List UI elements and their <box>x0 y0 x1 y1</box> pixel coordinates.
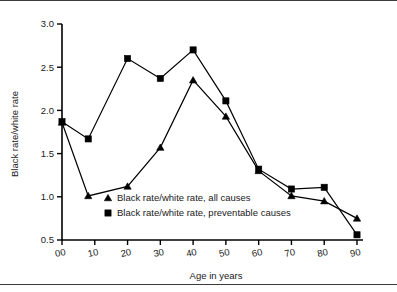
data-point-marker <box>223 98 229 104</box>
x-axis-tick-label: 10 <box>87 246 100 259</box>
legend-marker-triangle <box>104 194 111 200</box>
x-axis-tick-labels: 00102030405060708090 <box>54 246 362 259</box>
y-axis-tick-labels: 0.51.01.52.02.53.0 <box>41 18 54 245</box>
legend-label: Black rate/white rate, preventable cause… <box>117 207 291 218</box>
data-point-marker <box>85 136 91 142</box>
data-point-marker <box>353 215 360 221</box>
x-axis-tick-label: 50 <box>218 246 231 259</box>
chart-legend: Black rate/white rate, all causesBlack r… <box>104 192 291 218</box>
data-point-marker <box>157 144 164 150</box>
data-point-marker <box>190 47 196 53</box>
data-point-marker <box>157 75 163 81</box>
x-axis-tick-label: 70 <box>283 246 296 259</box>
y-axis-title: Black rate/white rate <box>9 91 20 177</box>
legend-label: Black rate/white rate, all causes <box>117 192 251 203</box>
x-axis-tick-label: 30 <box>152 246 165 259</box>
y-axis-tick-label: 1.0 <box>41 191 54 202</box>
data-point-marker <box>288 186 294 192</box>
y-axis-tick-label: 2.0 <box>41 105 54 116</box>
x-axis-tick-label: 60 <box>251 246 264 259</box>
data-point-marker <box>256 166 262 172</box>
legend-marker-square <box>105 210 111 216</box>
data-point-marker <box>59 119 65 125</box>
y-axis-tick-label: 2.5 <box>41 62 54 73</box>
y-axis-tick-label: 3.0 <box>41 18 54 29</box>
chart-plot-area: 0.51.01.52.02.53.0 00102030405060708090 … <box>0 0 397 292</box>
line-chart: 0.51.01.52.02.53.0 00102030405060708090 … <box>0 0 397 292</box>
y-axis-tick-label: 1.5 <box>41 148 54 159</box>
x-axis-tick-label: 90 <box>349 246 362 259</box>
data-point-marker <box>321 184 327 190</box>
x-axis-title: Age in years <box>190 270 243 281</box>
x-axis-tick-label: 00 <box>54 246 67 259</box>
data-point-marker <box>354 232 360 238</box>
figure-container: 0.51.01.52.02.53.0 00102030405060708090 … <box>0 0 397 292</box>
data-point-marker <box>124 55 130 61</box>
x-axis-tick-label: 40 <box>185 246 198 259</box>
x-axis-tick-label: 80 <box>316 246 329 259</box>
x-axis-tick-label: 20 <box>120 246 133 259</box>
data-point-marker <box>189 77 196 83</box>
y-axis-tick-label: 0.5 <box>41 234 54 245</box>
